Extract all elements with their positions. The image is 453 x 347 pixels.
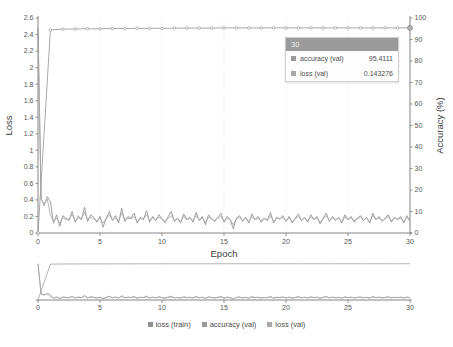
tooltip-swatch-accuracy — [291, 56, 296, 61]
series-point-accuracy-val — [111, 27, 114, 30]
hover-marker — [408, 25, 413, 30]
y-tick-label-right-4: 40 — [415, 143, 423, 150]
legend-label-accuracy-val: accuracy (val) — [210, 320, 257, 329]
overview-x-tick-label-1: 5 — [98, 304, 102, 311]
legend-item-loss-train[interactable]: loss (train) — [148, 320, 191, 329]
y-tick-label-left-12: 2.4 — [24, 31, 34, 38]
y-axis-left-title: Loss — [3, 115, 14, 135]
series-point-accuracy-val — [198, 27, 201, 30]
x-axis: 051015202530Epoch — [36, 233, 414, 259]
y-axis-right-title: Accuracy (%) — [434, 97, 445, 153]
series-point-accuracy-val — [62, 28, 65, 31]
legend-swatch-loss-train — [148, 322, 153, 327]
series-point-accuracy-val — [186, 27, 189, 30]
overview-x-tick-label-6: 30 — [406, 304, 414, 311]
overview-series-line — [38, 264, 410, 299]
tooltip-label-accuracy: accuracy (val) — [300, 54, 363, 63]
overview-x-tick-label-5: 25 — [344, 304, 352, 311]
overview-x-tick-label-3: 15 — [220, 304, 228, 311]
series-point-accuracy-val — [124, 27, 127, 30]
y-tick-label-left-5: 1 — [30, 147, 34, 154]
y-axis-left: 00.20.40.60.811.21.41.61.822.22.42.6Loss — [3, 14, 38, 236]
legend-label-loss-val: loss (val) — [275, 320, 305, 329]
tooltip-header: 30 — [286, 38, 398, 51]
chart-tooltip: 30 accuracy (val) 95.4111 loss (val) 0.1… — [285, 37, 399, 82]
y-tick-label-right-0: 0 — [415, 229, 419, 236]
x-tick-label-3: 15 — [220, 238, 228, 245]
series-point-accuracy-val — [396, 27, 399, 30]
overview-x-tick-label-4: 20 — [282, 304, 290, 311]
series-point-accuracy-val — [334, 27, 337, 30]
series-point-accuracy-val — [37, 232, 40, 235]
series-point-accuracy-val — [285, 27, 288, 30]
x-axis-title: Epoch — [211, 248, 238, 259]
tooltip-label-loss: loss (val) — [300, 69, 358, 78]
x-tick-label-6: 30 — [406, 238, 414, 245]
y-tick-label-left-7: 1.4 — [24, 114, 34, 121]
y-tick-label-right-7: 70 — [415, 79, 423, 86]
tooltip-swatch-loss — [291, 71, 296, 76]
series-point-accuracy-val — [74, 28, 77, 31]
legend-label-loss-train: loss (train) — [156, 320, 191, 329]
y-tick-label-right-2: 20 — [415, 186, 423, 193]
series-point-accuracy-val — [210, 27, 213, 30]
series-point-accuracy-val — [248, 27, 251, 30]
y-tick-label-right-6: 60 — [415, 100, 423, 107]
overview-chart[interactable]: 051015202530 — [36, 264, 414, 311]
y-tick-label-right-9: 90 — [415, 36, 423, 43]
series-point-accuracy-val — [260, 27, 263, 30]
series-point-accuracy-val — [223, 27, 226, 30]
tooltip-row-loss: loss (val) 0.143276 — [286, 66, 398, 81]
y-tick-label-left-13: 2.6 — [24, 14, 34, 21]
y-tick-label-right-1: 10 — [415, 208, 423, 215]
series-point-accuracy-val — [297, 27, 300, 30]
y-tick-label-left-6: 1.2 — [24, 130, 34, 137]
y-tick-label-left-9: 1.8 — [24, 81, 34, 88]
series-point-accuracy-val — [384, 27, 387, 30]
y-tick-label-right-3: 30 — [415, 165, 423, 172]
legend-swatch-accuracy-val — [202, 322, 207, 327]
series-point-accuracy-val — [99, 27, 102, 30]
x-tick-label-2: 10 — [158, 238, 166, 245]
x-tick-label-1: 5 — [98, 238, 102, 245]
x-tick-label-5: 25 — [344, 238, 352, 245]
series-point-accuracy-val — [49, 29, 52, 32]
series-point-accuracy-val — [235, 27, 238, 30]
legend-item-accuracy-val[interactable]: accuracy (val) — [202, 320, 257, 329]
hover-point-marker — [408, 25, 413, 30]
training-metrics-chart: 00.20.40.60.811.21.41.61.822.22.42.6Loss… — [0, 0, 453, 347]
overview-series-line — [38, 264, 410, 300]
x-tick-label-0: 0 — [36, 238, 40, 245]
y-tick-label-left-3: 0.6 — [24, 180, 34, 187]
y-tick-label-left-4: 0.8 — [24, 163, 34, 170]
y-tick-label-left-10: 2 — [30, 64, 34, 71]
overview-x-tick-label-0: 0 — [36, 304, 40, 311]
series-point-accuracy-val — [322, 27, 325, 30]
y-tick-label-left-0: 0 — [30, 229, 34, 236]
series-point-accuracy-val — [272, 27, 275, 30]
y-axis-right: 0102030405060708090100Accuracy (%) — [410, 14, 445, 236]
legend-item-loss-val[interactable]: loss (val) — [267, 320, 305, 329]
series-point-accuracy-val — [173, 27, 176, 30]
legend-swatch-loss-val — [267, 322, 272, 327]
series-point-accuracy-val — [310, 27, 313, 30]
y-tick-label-left-11: 2.2 — [24, 47, 34, 54]
series-point-accuracy-val — [136, 27, 139, 30]
y-tick-label-right-10: 100 — [415, 14, 427, 21]
y-tick-label-right-5: 50 — [415, 122, 423, 129]
tooltip-value-accuracy: 95.4111 — [363, 54, 393, 63]
y-tick-label-left-8: 1.6 — [24, 97, 34, 104]
series-point-accuracy-val — [161, 27, 164, 30]
tooltip-value-loss: 0.143276 — [358, 69, 393, 78]
series-point-accuracy-val — [86, 27, 89, 30]
overview-x-tick-label-2: 10 — [158, 304, 166, 311]
y-tick-label-left-2: 0.4 — [24, 196, 34, 203]
chart-legend: loss (train) accuracy (val) loss (val) — [0, 320, 453, 329]
y-tick-label-right-8: 80 — [415, 57, 423, 64]
series-point-accuracy-val — [148, 27, 151, 30]
series-point-accuracy-val — [347, 27, 350, 30]
x-tick-label-4: 20 — [282, 238, 290, 245]
tooltip-row-accuracy: accuracy (val) 95.4111 — [286, 51, 398, 66]
y-tick-label-left-1: 0.2 — [24, 213, 34, 220]
series-point-accuracy-val — [372, 27, 375, 30]
